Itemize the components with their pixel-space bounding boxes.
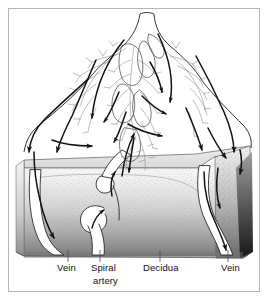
chorionic-plate [24,80,251,152]
label-vein-right: Vein [221,262,240,273]
label-spiral-artery-line2: artery [93,275,118,286]
label-decidua: Decidua [143,262,179,273]
chorionic-villous-tree [68,34,211,170]
diagram-canvas [0,0,269,306]
placental-circulation-figure: Vein Spiral artery Decidua Vein [0,0,269,306]
label-spiral-artery-line1: Spiral [91,262,116,273]
umbilical-cord [88,13,203,83]
label-vein-left: Vein [57,262,76,273]
